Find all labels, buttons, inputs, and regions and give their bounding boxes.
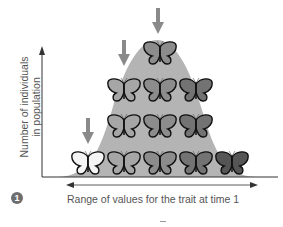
arrow-down-icon: [118, 40, 130, 66]
x-axis-label: Range of values for the trait at time 1: [67, 193, 267, 205]
y-axis-label: Number of individuals in population: [18, 47, 42, 167]
page-mark: [160, 221, 166, 222]
step-number-badge: 1: [11, 192, 23, 204]
directional-selection-diagram: Number of individuals in population 1 Ra…: [0, 0, 283, 227]
y-axis-label-line1: Number of individuals: [18, 47, 30, 167]
arrow-down-icon: [82, 118, 94, 144]
arrow-down-icon: [152, 8, 164, 34]
y-axis-label-line2: in population: [30, 47, 42, 167]
